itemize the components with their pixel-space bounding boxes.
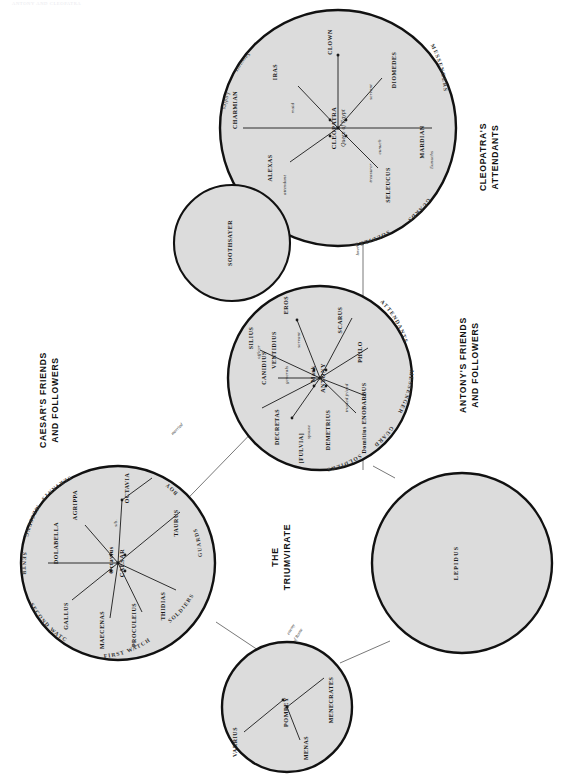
character-map-canvas: ANTONY AND CLEOPATRA [0, 0, 573, 777]
cleopatra-center-name: CLEOPATRA [330, 107, 337, 149]
member-menecrates: MENECRATES [328, 677, 334, 724]
sublabel-eunuchs: Eunuchs [429, 151, 434, 170]
member-diomedes: DIOMEDES [391, 52, 397, 89]
member-thidias: THIDIAS [160, 591, 166, 620]
group-label-antony-line1: ANTONY'S FRIENDS [458, 317, 468, 413]
member-canidius: CANIDIUS [261, 351, 267, 385]
member-pompey: POMPEY [282, 697, 289, 727]
relation-octavia-sib: sib. [113, 519, 118, 527]
rim-caesar-messengers: MESSENGERS [0, 0, 41, 539]
member-ventidius: VENTIDIUS [271, 331, 277, 369]
member-soothsayer: SOOTHSAYER [227, 220, 233, 266]
cleopatra-center-title: Queen of Egypt [340, 109, 346, 147]
connector-pompey-lepidus [340, 641, 390, 663]
circle-pompey[interactable]: POMPEY MENECRATES MENAS VARRIUS [222, 642, 352, 772]
group-label-triumvirate-line1: THE [270, 547, 280, 566]
edge-label-married: married [170, 421, 184, 435]
circle-lepidus[interactable]: LEPIDUS [372, 473, 552, 653]
group-label-cleopatra-line2: ATTENDANTS [490, 124, 500, 189]
member-silius: SILIUS [248, 327, 254, 350]
member-iras: IRAS [272, 64, 278, 80]
group-label-cleopatra-line1: CLEOPATRA'S [478, 123, 488, 191]
antony-center-name-line1: Mark [309, 365, 316, 382]
circle-lepidus-shape[interactable] [372, 473, 552, 653]
relation-seleucus-treasurer: treasurer [368, 163, 373, 182]
member-agrippa: AGRIPPA [72, 490, 78, 520]
member-menas: MENAS [303, 736, 309, 760]
connector-antony-lepidus [373, 466, 395, 478]
relation-fulvia-spouse: spouse [306, 424, 311, 439]
relation-eros-servant: servant [296, 332, 301, 348]
member-alexas: ALEXAS [267, 154, 273, 181]
group-label-caesar-line1: CAESAR'S FRIENDS [38, 352, 48, 448]
member-taurus: TAURUS [173, 509, 179, 536]
relation-mardian-eunuch: eunuch [377, 139, 382, 154]
member-gallus: GALLUS [63, 602, 69, 630]
member-maecenas: MAECENAS [99, 611, 105, 649]
antony-center-name-line2: ANTONY [319, 363, 326, 393]
relation-generals: generals [284, 366, 289, 384]
rim-caesar-sentry: SENTRY [0, 0, 28, 576]
member-proculeius: PROCULEIUS [131, 603, 137, 647]
group-label-antony-line2: AND FOLLOWERS [470, 322, 480, 408]
connector-caesar-pompey [216, 622, 258, 650]
relation-iras-maid: maid [290, 102, 295, 113]
member-decretas: DECRETAS [274, 409, 280, 445]
relation-alexas-attendant: attendant [282, 175, 287, 195]
member-philo: PHILO [357, 341, 363, 363]
page-header-text: ANTONY AND CLEOPATRA [12, 1, 81, 6]
member-varrius: VARRIUS [232, 727, 238, 757]
circle-soothsayer[interactable]: SOOTHSAYER [174, 185, 290, 301]
group-label-caesar-line2: AND FOLLOWERS [50, 357, 60, 443]
member-scarus: SCARUS [337, 306, 343, 333]
relation-diomedes-servant: servant [368, 84, 373, 100]
member-clown: CLOWN [327, 29, 333, 55]
group-label-triumvirate-line2: TRIUMVIRATE [282, 524, 292, 590]
member-lepidus: LEPIDUS [453, 546, 459, 580]
member-charmian: CHARMIAN [232, 91, 238, 129]
edge-label-enemy-of-rome-line2: of Rome [292, 627, 304, 643]
member-dolabella: DOLABELLA [53, 522, 59, 564]
relation-silius-officer: officer [256, 345, 261, 359]
caesar-center-name-line2: CAESAR [118, 549, 125, 577]
member-seleucus: SELEUCUS [385, 167, 391, 203]
character-relationship-diagram: ANTONY AND CLEOPATRA [0, 0, 573, 777]
member-fulvia: [FULVIA] [298, 433, 304, 463]
member-octavia: OCTAVIA [124, 473, 130, 504]
member-demetrius: DEMETRIUS [325, 410, 331, 451]
edge-label-lovers: lovers [355, 244, 360, 255]
member-eros: EROS [283, 296, 289, 314]
circle-caesar[interactable]: Octavius CAESAR OCTAVIA AGRIPPA DOLABELL… [0, 0, 215, 660]
member-mardian: MARDIAN [419, 125, 425, 158]
member-enobarbus: Domitius ENOBARBUS [361, 382, 367, 453]
caesar-center-name-line1: Octavius [107, 546, 114, 573]
relation-enobarbus-trusted-friend: trusted friend [344, 383, 349, 412]
